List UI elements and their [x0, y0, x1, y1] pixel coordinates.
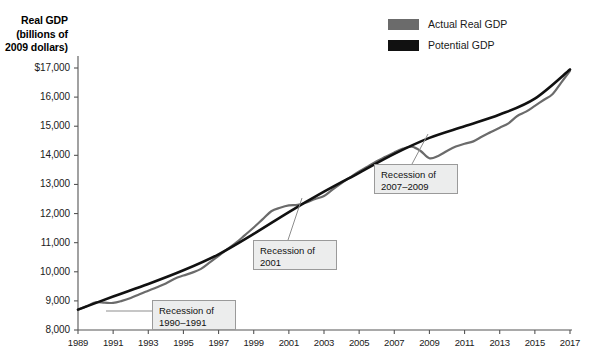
x-axis-tick-label: 1989	[58, 337, 98, 348]
annotation-label-line1: Recession of	[381, 169, 451, 181]
x-axis-tick-label: 2009	[409, 337, 449, 348]
annotation-label-line1: Recession of	[159, 305, 229, 317]
y-axis-tick-label: 8,000	[8, 324, 70, 335]
x-axis-tick-label: 2003	[304, 337, 344, 348]
y-axis-tick-label: 10,000	[8, 266, 70, 277]
annotation-leader-recession-2007-2009	[412, 134, 428, 164]
x-axis-tick-label: 1999	[234, 337, 274, 348]
x-axis-tick-label: 2001	[269, 337, 309, 348]
x-axis-tick-label: 1997	[199, 337, 239, 348]
y-axis-tick-label: 9,000	[8, 295, 70, 306]
annotation-label-line2: 1990–1991	[159, 317, 229, 329]
annotation-recession-2007-2009: Recession of2007–2009	[374, 164, 458, 194]
gdp-chart: Real GDP (billions of 2009 dollars) Actu…	[0, 0, 596, 362]
annotation-recession-1990-1991: Recession of1990–1991	[152, 300, 236, 330]
x-axis-tick-label: 2013	[480, 337, 520, 348]
x-axis-tick-label: 2015	[515, 337, 555, 348]
y-axis-tick-label: 12,000	[8, 208, 70, 219]
y-axis-tick-label: 11,000	[8, 237, 70, 248]
y-axis-tick-label: 13,000	[8, 178, 70, 189]
annotation-label-line2: 2007–2009	[381, 181, 451, 193]
x-axis-tick-label: 2005	[339, 337, 379, 348]
x-axis-tick-label: 2007	[374, 337, 414, 348]
y-axis-tick-label: 16,000	[8, 91, 70, 102]
x-axis-tick-label: 1995	[163, 337, 203, 348]
x-axis-tick-label: 1991	[93, 337, 133, 348]
annotation-label-line2: 2001	[260, 257, 330, 269]
y-axis-tick-label: 14,000	[8, 149, 70, 160]
x-axis-tick-label: 1993	[128, 337, 168, 348]
y-axis-tick-label: $17,000	[8, 62, 70, 73]
plot-area	[0, 0, 596, 362]
x-axis-tick-label: 2017	[550, 337, 590, 348]
annotation-recession-2001: Recession of2001	[253, 240, 337, 270]
annotation-label-line1: Recession of	[260, 245, 330, 257]
y-axis-tick-label: 15,000	[8, 120, 70, 131]
series-line-potential-gdp	[78, 69, 570, 309]
x-axis-tick-label: 2011	[445, 337, 485, 348]
